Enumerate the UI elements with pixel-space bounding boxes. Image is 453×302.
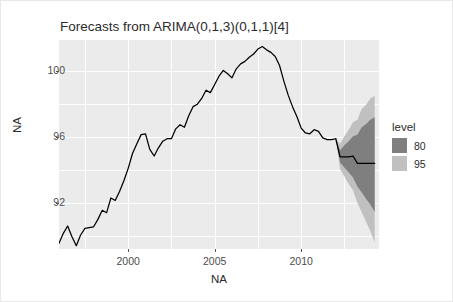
x-axis-tick-label: 2005 (203, 255, 226, 267)
x-axis-tick-mark (128, 249, 129, 252)
x-axis-label: NA (211, 273, 227, 285)
data-lines (59, 47, 375, 246)
y-axis-tick-label: 96 (53, 130, 65, 142)
legend: level 8095 (392, 121, 426, 174)
legend-item-95[interactable]: 95 (392, 156, 426, 171)
series-observed (59, 47, 336, 246)
x-axis-tick-mark (301, 249, 302, 252)
legend-key-swatch (392, 138, 407, 153)
legend-key-swatch (392, 156, 407, 171)
forecast-intervals (336, 96, 375, 242)
x-axis-tick-label: 2000 (117, 255, 140, 267)
plot-panel (59, 40, 379, 249)
legend-title: level (392, 121, 426, 133)
legend-item-label: 95 (414, 158, 426, 170)
figure-frame: Forecasts from ARIMA(0,1,3)(0,1,1)[4] 92… (0, 0, 453, 302)
y-axis-label: NA (11, 117, 23, 133)
legend-item-label: 80 (414, 140, 426, 152)
chart-plot-area: Forecasts from ARIMA(0,1,3)(0,1,1)[4] 92… (1, 1, 453, 302)
legend-items: 8095 (392, 138, 426, 171)
chart-title: Forecasts from ARIMA(0,1,3)(0,1,1)[4] (60, 19, 289, 34)
y-axis-tick-mark (56, 137, 59, 138)
y-axis-tick-mark (56, 203, 59, 204)
y-axis-tick-label: 100 (47, 64, 65, 76)
x-axis-tick-mark (215, 249, 216, 252)
legend-item-80[interactable]: 80 (392, 138, 426, 153)
x-axis-tick-label: 2010 (289, 255, 312, 267)
y-axis-tick-label: 92 (53, 196, 65, 208)
chart-canvas (59, 40, 379, 249)
y-axis-tick-mark (56, 71, 59, 72)
